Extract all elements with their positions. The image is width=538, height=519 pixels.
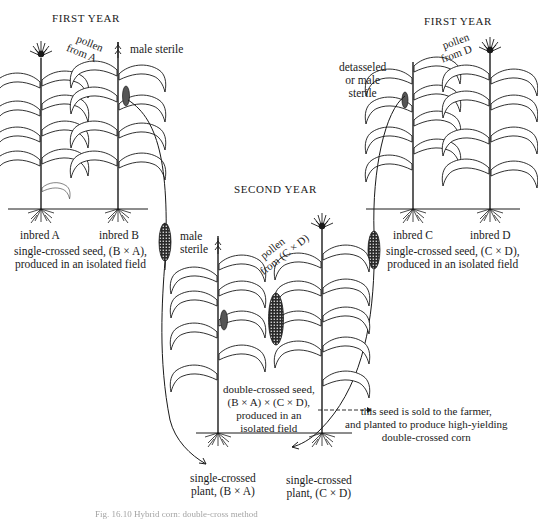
label-plant-cd: single-crossed plant, (C × D) — [286, 474, 352, 500]
title-first-year-right: FIRST YEAR — [424, 15, 492, 27]
title-first-year-left: FIRST YEAR — [52, 12, 120, 24]
double-cross-caption: double-crossed seed, (B × A) × (C × D), … — [223, 383, 315, 435]
label-plant-ba: single-crossed plant, (B × A) — [190, 472, 256, 498]
seed-caption-cd: single-crossed seed, (C × D), produced i… — [386, 245, 520, 271]
label-inbred-b: inbred B — [99, 229, 139, 242]
detasseled-label: detasseled or male sterile — [339, 61, 386, 100]
seed-caption-ba: single-crossed seed, (B × A), produced i… — [14, 245, 147, 271]
label-inbred-c: inbred C — [393, 229, 433, 242]
label-inbred-d: inbred D — [470, 229, 511, 242]
label-inbred-a: inbred A — [20, 229, 60, 242]
title-second-year: SECOND YEAR — [234, 183, 317, 195]
male-sterile-label-left: male sterile — [130, 43, 183, 56]
cob-single-cross-ba — [159, 223, 206, 464]
figure-caption: Fig. 16.10 Hybrid corn: double-cross met… — [95, 509, 258, 519]
farmer-note: this seed is sold to the farmer, and pla… — [345, 405, 508, 444]
male-sterile-label-second: male sterile — [180, 230, 208, 256]
cob-double-cross — [269, 293, 284, 345]
